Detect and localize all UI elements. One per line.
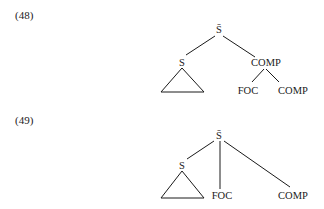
triangle-icon: [161, 68, 204, 92]
edge-root-left: [187, 141, 214, 159]
edge-comp-foc: [252, 69, 264, 82]
node-s: S: [179, 57, 185, 68]
node-s: S: [179, 160, 185, 171]
tree-48: S̄ S COMP FOC COMP: [161, 24, 308, 96]
node-foc: FOC: [238, 85, 258, 96]
node-s-bar: S̄: [216, 130, 222, 141]
node-s-bar: S̄: [216, 24, 222, 35]
node-comp: COMP: [251, 57, 281, 68]
node-foc: FOC: [212, 190, 232, 201]
triangle-icon: [161, 171, 204, 198]
edge-root-right: [223, 36, 255, 57]
node-comp-lower: COMP: [278, 85, 308, 96]
edge-comp-comp: [266, 69, 279, 82]
edge-root-right: [224, 141, 290, 187]
syntax-tree-diagrams: S̄ S COMP FOC COMP S̄ S FOC COMP: [0, 0, 324, 209]
node-comp: COMP: [278, 190, 308, 201]
tree-49: S̄ S FOC COMP: [161, 130, 308, 201]
edge-root-left: [186, 36, 215, 55]
